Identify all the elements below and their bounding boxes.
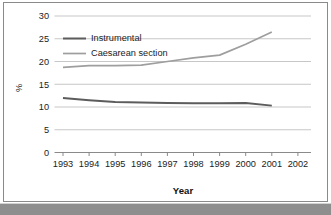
x-tick-label: 1993 bbox=[53, 159, 73, 169]
x-tick-label: 1998 bbox=[183, 159, 203, 169]
x-tick-label: 2001 bbox=[262, 159, 282, 169]
y-tick-label: 0 bbox=[44, 148, 49, 158]
y-tick-label: 15 bbox=[39, 80, 49, 90]
x-tick-label: 1995 bbox=[105, 159, 125, 169]
x-tick-label: 1999 bbox=[209, 159, 229, 169]
scan-band-dark bbox=[0, 204, 331, 215]
chart-figure: 051015202530 199319941995199619971998199… bbox=[0, 0, 331, 215]
y-tick-label: 25 bbox=[39, 34, 49, 44]
y-tick-label: 20 bbox=[39, 57, 49, 67]
plot-area: 051015202530 199319941995199619971998199… bbox=[0, 0, 331, 204]
y-tick-label: 10 bbox=[39, 102, 49, 112]
legend-label-instrumental: Instrumental bbox=[91, 33, 142, 43]
line-chart: 051015202530 199319941995199619971998199… bbox=[0, 0, 331, 204]
x-tick-label: 1994 bbox=[79, 159, 99, 169]
y-tick-label: 5 bbox=[44, 125, 49, 135]
series-line-instrumental bbox=[63, 98, 272, 106]
legend: Instrumental Caesarean section bbox=[63, 33, 168, 58]
x-tick-marks-group bbox=[63, 153, 298, 157]
x-tick-label: 1996 bbox=[131, 159, 151, 169]
legend-label-caesarean-section: Caesarean section bbox=[91, 48, 168, 58]
x-tick-label: 2002 bbox=[288, 159, 308, 169]
y-axis-title: % bbox=[14, 84, 24, 92]
y-tick-labels-group: 051015202530 bbox=[39, 11, 49, 158]
x-tick-label: 1997 bbox=[157, 159, 177, 169]
x-tick-label: 2000 bbox=[235, 159, 255, 169]
x-axis-title: Year bbox=[173, 185, 194, 196]
y-tick-label: 30 bbox=[39, 11, 49, 21]
x-tick-labels-group: 1993199419951996199719981999200020012002 bbox=[53, 159, 308, 169]
